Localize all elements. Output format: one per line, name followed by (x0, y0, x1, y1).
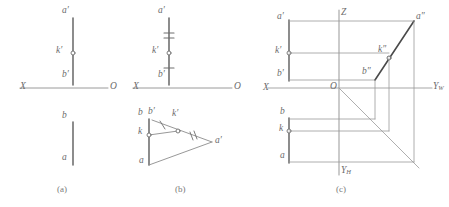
panel-c-drawing (268, 10, 432, 175)
panel-b-label-x: X (133, 82, 139, 92)
panel-c-label-a-double-prime: a″ (416, 12, 425, 22)
panel-c-label-origin: O (330, 82, 337, 92)
panel-b-label-a: a (139, 156, 144, 166)
panel-b-label-o: O (234, 82, 241, 92)
panel-a-label-a: a (62, 153, 67, 163)
panel-b-label-b-prime-rotated: b′ (148, 107, 155, 117)
panel-b-tick-ka-2 (194, 131, 197, 139)
panel-a-label-k-prime: k′ (56, 46, 62, 56)
panel-c-label-a: a (280, 151, 285, 161)
panel-b-point-k-rotated (176, 129, 180, 133)
panel-c-label-x-axis: X (263, 83, 269, 93)
panel-c-label-z-axis: Z (341, 8, 346, 18)
panel-b-triangle-hypotenuse (149, 142, 212, 165)
caption-c: (c) (336, 184, 346, 194)
panel-b-label-b: b (138, 108, 143, 118)
panel-a-point-k-prime (71, 51, 75, 55)
panel-a-label-b-prime: b′ (62, 70, 69, 80)
panel-b-label-k-prime-rotated: k′ (172, 109, 178, 119)
figure-drawing-canvas (0, 0, 449, 207)
panel-c-label-k-prime: k′ (275, 46, 281, 56)
panel-b-label-k-prime: k′ (152, 46, 158, 56)
panel-a-label-o: O (110, 82, 117, 92)
panel-b-tick-bk (160, 121, 165, 129)
caption-b: (b) (175, 184, 186, 194)
panel-a-label-a-prime: a′ (62, 6, 69, 16)
panel-c-label-b: b (280, 107, 285, 117)
panel-c-label-b-prime: b′ (277, 69, 284, 79)
panel-c-label-yh-axis: YH (341, 166, 351, 176)
panel-b-label-k: k (138, 127, 142, 137)
panel-c-label-k-double-prime: k″ (378, 45, 386, 55)
panel-c-label-k: k (279, 124, 283, 134)
panel-b-label-b-prime: b′ (158, 70, 165, 80)
panel-c-label-b-double-prime: b″ (362, 67, 371, 77)
panel-b-label-a-prime: a′ (158, 6, 165, 16)
panel-c-label-yw-axis: YW (433, 82, 444, 92)
panel-a-label-x: X (20, 82, 26, 92)
panel-c-label-a-prime: a′ (277, 12, 284, 22)
panel-b-point-k-prime (167, 51, 171, 55)
panel-a-label-b: b (62, 111, 67, 121)
descriptive-geometry-figure: X O a′ k′ b′ b a X O a′ k′ b′ b b′ k′ k … (0, 0, 449, 207)
panel-b-tick-ka-1 (190, 132, 193, 140)
panel-a-drawing (20, 18, 108, 165)
panel-b-point-k (147, 133, 151, 137)
panel-c-bisector-45 (339, 88, 419, 168)
caption-a: (a) (57, 184, 67, 194)
panel-b-label-a-prime-rotated: a′ (215, 136, 222, 146)
panel-b-connector-k-krot (149, 131, 178, 135)
